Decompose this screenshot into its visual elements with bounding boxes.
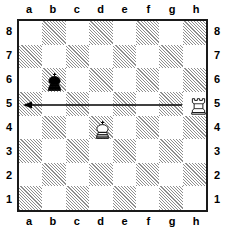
square-g7[interactable] — [159, 45, 182, 69]
square-f6[interactable] — [136, 68, 159, 92]
square-e4[interactable] — [113, 116, 136, 140]
file-label-e-top: e — [113, 1, 137, 18]
chess-diagram: a b c d e f g h a b c d e f g h 8 7 6 5 … — [0, 0, 226, 243]
file-label-a-top: a — [17, 1, 41, 18]
file-label-g-top: g — [160, 1, 184, 18]
square-b8[interactable] — [42, 21, 65, 45]
square-b3[interactable] — [42, 139, 65, 163]
square-a7[interactable] — [19, 45, 42, 69]
square-h3[interactable] — [183, 139, 206, 163]
square-g8[interactable] — [159, 21, 182, 45]
file-label-e-bottom: e — [113, 213, 137, 230]
square-h1[interactable] — [183, 186, 206, 210]
square-a6[interactable] — [19, 68, 42, 92]
square-h8[interactable] — [183, 21, 206, 45]
rank-label-4-right: 4 — [209, 116, 225, 140]
file-label-f-bottom: f — [136, 213, 160, 230]
file-label-b-top: b — [41, 1, 65, 18]
file-label-c-bottom: c — [65, 213, 89, 230]
file-label-d-top: d — [89, 1, 113, 18]
white-rook-h5[interactable] — [186, 93, 210, 117]
square-f1[interactable] — [136, 186, 159, 210]
square-e5[interactable] — [113, 92, 136, 116]
square-a5[interactable] — [19, 92, 42, 116]
file-label-h-bottom: h — [184, 213, 208, 230]
square-d8[interactable] — [89, 21, 112, 45]
file-labels-top: a b c d e f g h — [17, 1, 208, 18]
square-h7[interactable] — [183, 45, 206, 69]
rank-label-5-right: 5 — [209, 91, 225, 115]
rank-label-1-left: 1 — [1, 188, 17, 212]
rank-label-5-left: 5 — [1, 91, 17, 115]
square-a8[interactable] — [19, 21, 42, 45]
square-d3[interactable] — [89, 139, 112, 163]
rank-label-8-right: 8 — [209, 19, 225, 43]
black-king-b6[interactable] — [43, 69, 67, 93]
square-b5[interactable] — [42, 92, 65, 116]
file-label-d-bottom: d — [89, 213, 113, 230]
square-b7[interactable] — [42, 45, 65, 69]
square-e1[interactable] — [113, 186, 136, 210]
file-label-b-bottom: b — [41, 213, 65, 230]
square-e2[interactable] — [113, 163, 136, 187]
file-label-h-top: h — [184, 1, 208, 18]
square-e7[interactable] — [113, 45, 136, 69]
square-f8[interactable] — [136, 21, 159, 45]
file-labels-bottom: a b c d e f g h — [17, 213, 208, 230]
rank-label-7-left: 7 — [1, 43, 17, 67]
square-g3[interactable] — [159, 139, 182, 163]
square-a2[interactable] — [19, 163, 42, 187]
rank-label-6-right: 6 — [209, 67, 225, 91]
rank-label-2-right: 2 — [209, 164, 225, 188]
square-d2[interactable] — [89, 163, 112, 187]
file-label-a-bottom: a — [17, 213, 41, 230]
file-label-g-bottom: g — [160, 213, 184, 230]
square-g4[interactable] — [159, 116, 182, 140]
square-f2[interactable] — [136, 163, 159, 187]
square-c6[interactable] — [66, 68, 89, 92]
square-e6[interactable] — [113, 68, 136, 92]
white-king-d4[interactable] — [91, 118, 115, 142]
square-f4[interactable] — [136, 116, 159, 140]
square-c7[interactable] — [66, 45, 89, 69]
square-d6[interactable] — [89, 68, 112, 92]
rank-label-4-left: 4 — [1, 116, 17, 140]
file-label-c-top: c — [65, 1, 89, 18]
square-a4[interactable] — [19, 116, 42, 140]
square-c1[interactable] — [66, 186, 89, 210]
square-c8[interactable] — [66, 21, 89, 45]
square-c2[interactable] — [66, 163, 89, 187]
square-g1[interactable] — [159, 186, 182, 210]
file-label-f-top: f — [136, 1, 160, 18]
square-h2[interactable] — [183, 163, 206, 187]
square-h4[interactable] — [183, 116, 206, 140]
square-g2[interactable] — [159, 163, 182, 187]
rank-label-1-right: 1 — [209, 188, 225, 212]
square-a3[interactable] — [19, 139, 42, 163]
rank-labels-left: 8 7 6 5 4 3 2 1 — [1, 19, 17, 212]
rank-label-8-left: 8 — [1, 19, 17, 43]
square-d7[interactable] — [89, 45, 112, 69]
square-c4[interactable] — [66, 116, 89, 140]
square-e8[interactable] — [113, 21, 136, 45]
square-c3[interactable] — [66, 139, 89, 163]
square-c5[interactable] — [66, 92, 89, 116]
square-f7[interactable] — [136, 45, 159, 69]
rank-label-3-right: 3 — [209, 140, 225, 164]
square-b1[interactable] — [42, 186, 65, 210]
square-g5[interactable] — [159, 92, 182, 116]
board-squares-grid — [19, 21, 206, 210]
square-b4[interactable] — [42, 116, 65, 140]
rank-labels-right: 8 7 6 5 4 3 2 1 — [209, 19, 225, 212]
square-d5[interactable] — [89, 92, 112, 116]
rank-label-7-right: 7 — [209, 43, 225, 67]
square-d1[interactable] — [89, 186, 112, 210]
square-h6[interactable] — [183, 68, 206, 92]
square-a1[interactable] — [19, 186, 42, 210]
square-b2[interactable] — [42, 163, 65, 187]
square-e3[interactable] — [113, 139, 136, 163]
square-f5[interactable] — [136, 92, 159, 116]
square-g6[interactable] — [159, 68, 182, 92]
square-f3[interactable] — [136, 139, 159, 163]
chess-board[interactable] — [17, 19, 208, 212]
